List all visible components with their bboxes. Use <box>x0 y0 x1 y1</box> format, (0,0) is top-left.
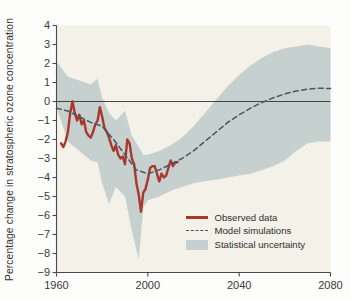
chart-figure: Percentage change in stratospheric ozone… <box>0 0 351 299</box>
x-tick-label: 1960 <box>37 279 77 291</box>
y-tick-label: 3 <box>26 38 50 50</box>
legend-item-model: Model simulations <box>185 224 306 238</box>
y-tick-label: 4 <box>26 19 50 31</box>
x-tick-label: 2000 <box>128 279 168 291</box>
y-tick-label: 2 <box>26 57 50 69</box>
legend-label-model: Model simulations <box>215 225 292 236</box>
legend-label-uncertainty: Statistical uncertainty <box>215 239 306 250</box>
observed-data-line-icon <box>185 211 209 225</box>
statistical-uncertainty-band-icon <box>185 238 209 252</box>
x-tick-label: 2040 <box>219 279 259 291</box>
y-tick-label: −7 <box>26 228 50 240</box>
y-tick-label: 1 <box>26 76 50 88</box>
plot-area <box>0 0 351 299</box>
x-tick-label: 2080 <box>311 279 351 291</box>
y-tick-label: −4 <box>26 171 50 183</box>
chart-svg <box>0 0 351 299</box>
chart-legend: Observed data Model simulations Statisti… <box>185 211 306 252</box>
y-tick-label: −3 <box>26 152 50 164</box>
model-simulations-dashed-line-icon <box>185 224 209 238</box>
y-tick-label: −2 <box>26 133 50 145</box>
legend-item-observed: Observed data <box>185 211 306 225</box>
legend-label-observed: Observed data <box>215 212 278 223</box>
y-tick-label: −8 <box>26 247 50 259</box>
y-tick-label: 0 <box>26 95 50 107</box>
y-tick-label: −9 <box>26 266 50 278</box>
legend-item-uncertainty: Statistical uncertainty <box>185 238 306 252</box>
y-tick-label: −1 <box>26 114 50 126</box>
y-tick-label: −6 <box>26 209 50 221</box>
y-tick-label: −5 <box>26 190 50 202</box>
